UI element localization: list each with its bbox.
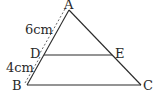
triangle-diagram	[0, 0, 156, 99]
point-label-d: D	[30, 47, 40, 60]
side-ac	[69, 10, 141, 85]
vertex-label-c: C	[143, 79, 153, 92]
vertex-label-b: B	[12, 79, 22, 92]
measurement-db: 4cm	[6, 61, 34, 74]
point-label-e: E	[115, 47, 125, 60]
measurement-ad: 6cm	[25, 23, 53, 36]
vertex-label-a: A	[64, 0, 73, 11]
